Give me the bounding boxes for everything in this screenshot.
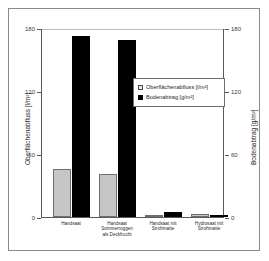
chart-legend: Oberflächenabfluss [l/m²] Bodenabtrag [g… — [133, 78, 225, 107]
right-tick-label-60: 60 — [231, 152, 247, 158]
bar-erosion-2[interactable] — [164, 212, 182, 217]
plot-area — [41, 29, 224, 218]
bar-runoff-2[interactable] — [145, 215, 163, 217]
y-axis-title-right: Bodenabtrag [g/m²] — [250, 109, 257, 165]
chart-figure: 180 120 60 0 180 120 60 0 Oberflächenabf… — [0, 0, 269, 261]
left-tick-0 — [37, 218, 41, 219]
right-tick-120 — [225, 92, 229, 93]
x-category-label-0-line1: Handsaat — [48, 221, 94, 226]
legend-swatch-runoff-icon — [138, 85, 143, 90]
x-category-label-0: Handsaat — [48, 221, 94, 226]
bar-erosion-3[interactable] — [210, 215, 228, 217]
right-tick-0 — [225, 218, 229, 219]
bar-erosion-1[interactable] — [118, 40, 136, 217]
bar-erosion-0[interactable] — [72, 36, 90, 217]
legend-label-runoff: Oberflächenabfluss [l/m²] — [146, 84, 208, 90]
right-tick-label-0: 0 — [231, 215, 247, 221]
bar-runoff-3[interactable] — [191, 214, 209, 217]
left-tick-label-180: 180 — [19, 26, 35, 32]
right-tick-180 — [225, 29, 229, 30]
bar-runoff-1[interactable] — [99, 174, 117, 217]
legend-item-erosion[interactable]: Bodenabtrag [g/m²] — [138, 92, 220, 102]
x-category-label-2: Handsaat mit Strohmatte — [140, 221, 186, 232]
right-tick-label-180: 180 — [231, 26, 247, 32]
x-category-label-1: Handsaat Sommerroggen als Deckfrucht — [94, 221, 140, 237]
x-category-label-3-line2: Strohmatte — [186, 226, 232, 231]
x-category-label-2-line2: Strohmatte — [140, 226, 186, 231]
legend-swatch-erosion-icon — [138, 95, 143, 100]
y-axis-title-left: Oberflächenabfluss [l/m²] — [24, 93, 31, 165]
legend-item-runoff[interactable]: Oberflächenabfluss [l/m²] — [138, 82, 220, 92]
right-tick-60 — [225, 155, 229, 156]
x-category-label-3: Hydrosaat mit Strohmatte — [186, 221, 232, 232]
x-category-label-1-line3: als Deckfrucht — [94, 232, 140, 237]
left-tick-label-0: 0 — [19, 215, 35, 221]
legend-label-erosion: Bodenabtrag [g/m²] — [146, 94, 194, 100]
right-tick-label-120: 120 — [231, 89, 247, 95]
bar-runoff-0[interactable] — [53, 169, 71, 217]
